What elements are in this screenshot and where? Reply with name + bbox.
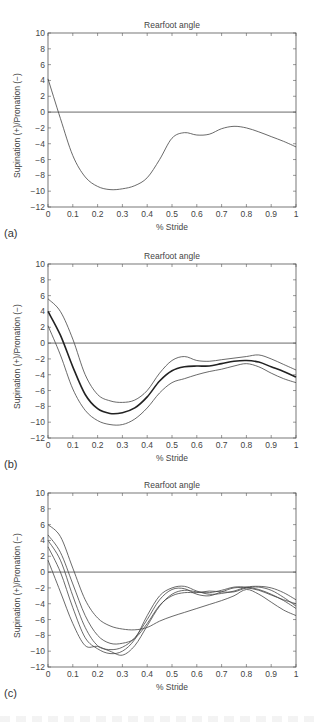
series-line <box>48 540 296 649</box>
y-tick-label: 10 <box>15 259 45 269</box>
x-tick-label: 1 <box>284 669 308 679</box>
x-tick-label: 0.8 <box>234 440 258 450</box>
y-tick-label: −4 <box>15 599 45 609</box>
x-tick-label: 0.4 <box>135 669 159 679</box>
series-line <box>48 525 296 630</box>
x-tick-label: 0.1 <box>61 440 85 450</box>
x-tick-label: 0 <box>36 440 60 450</box>
y-tick-label: −6 <box>15 386 45 396</box>
chart-c-panel-label: (c) <box>4 687 17 699</box>
x-tick-label: 1 <box>284 440 308 450</box>
y-tick-label: 6 <box>15 520 45 530</box>
series-line <box>48 311 296 413</box>
y-tick-label: −10 <box>15 417 45 427</box>
x-tick-label: 0.8 <box>234 209 258 219</box>
series-line <box>48 560 296 655</box>
chart-a-title: Rearfoot angle <box>48 20 296 30</box>
y-tick-label: 2 <box>15 551 45 561</box>
y-tick-label: −8 <box>15 630 45 640</box>
y-tick-label: 6 <box>15 60 45 70</box>
y-tick-label: 8 <box>15 44 45 54</box>
x-tick-label: 0.2 <box>86 440 110 450</box>
chart-b-plot <box>0 231 317 471</box>
y-tick-label: 4 <box>15 535 45 545</box>
x-tick-label: 0.6 <box>185 669 209 679</box>
chart-c-title: Rearfoot angle <box>48 480 296 490</box>
x-tick-label: 0.5 <box>160 440 184 450</box>
chart-c-plot <box>0 460 317 700</box>
x-tick-label: 0.6 <box>185 440 209 450</box>
x-tick-label: 0.1 <box>61 209 85 219</box>
cut-off-caption <box>0 716 317 722</box>
series-line <box>48 299 296 403</box>
x-tick-label: 0.2 <box>86 669 110 679</box>
x-tick-label: 0.6 <box>185 209 209 219</box>
x-tick-label: 0.5 <box>160 209 184 219</box>
y-tick-label: 6 <box>15 291 45 301</box>
chart-panel-a: Rearfoot angle % Stride Supination (+)/P… <box>0 0 317 240</box>
x-tick-label: 0.1 <box>61 669 85 679</box>
y-tick-label: 4 <box>15 306 45 316</box>
y-tick-label: 8 <box>15 504 45 514</box>
x-tick-label: 0.3 <box>110 669 134 679</box>
y-tick-label: 0 <box>15 107 45 117</box>
plot-frame <box>48 493 296 667</box>
y-tick-label: −6 <box>15 615 45 625</box>
x-tick-label: 0.3 <box>110 440 134 450</box>
y-tick-label: −4 <box>15 139 45 149</box>
y-tick-label: 0 <box>15 338 45 348</box>
y-tick-label: 2 <box>15 91 45 101</box>
x-tick-label: 0.4 <box>135 440 159 450</box>
chart-panel-c: Rearfoot angle % Stride Supination (+)/P… <box>0 460 317 700</box>
x-tick-label: 0.7 <box>210 209 234 219</box>
y-tick-label: −10 <box>15 186 45 196</box>
chart-b-title: Rearfoot angle <box>48 251 296 261</box>
y-tick-label: −6 <box>15 155 45 165</box>
y-tick-label: −4 <box>15 370 45 380</box>
x-tick-label: 0.9 <box>259 440 283 450</box>
y-tick-label: −2 <box>15 123 45 133</box>
y-tick-label: 4 <box>15 75 45 85</box>
plot-frame <box>48 33 296 207</box>
y-tick-label: −8 <box>15 401 45 411</box>
x-tick-label: 0.9 <box>259 669 283 679</box>
plot-frame <box>48 264 296 438</box>
x-tick-label: 0.5 <box>160 669 184 679</box>
x-tick-label: 0.9 <box>259 209 283 219</box>
x-tick-label: 0.7 <box>210 669 234 679</box>
x-tick-label: 0.4 <box>135 209 159 219</box>
y-tick-label: 8 <box>15 275 45 285</box>
y-tick-label: 2 <box>15 322 45 332</box>
chart-panel-b: Rearfoot angle % Stride Supination (+)/P… <box>0 231 317 471</box>
x-tick-label: 0 <box>36 209 60 219</box>
x-tick-label: 1 <box>284 209 308 219</box>
y-tick-label: 10 <box>15 488 45 498</box>
y-tick-label: −8 <box>15 170 45 180</box>
y-tick-label: 0 <box>15 567 45 577</box>
y-tick-label: −2 <box>15 583 45 593</box>
x-tick-label: 0.8 <box>234 669 258 679</box>
x-tick-label: 0.7 <box>210 440 234 450</box>
x-tick-label: 0.2 <box>86 209 110 219</box>
y-tick-label: −10 <box>15 646 45 656</box>
series-line <box>48 79 296 190</box>
y-tick-label: 10 <box>15 28 45 38</box>
x-tick-label: 0.3 <box>110 209 134 219</box>
chart-c-xlabel: % Stride <box>48 682 296 692</box>
y-tick-label: −2 <box>15 354 45 364</box>
x-tick-label: 0 <box>36 669 60 679</box>
chart-a-plot <box>0 0 317 240</box>
